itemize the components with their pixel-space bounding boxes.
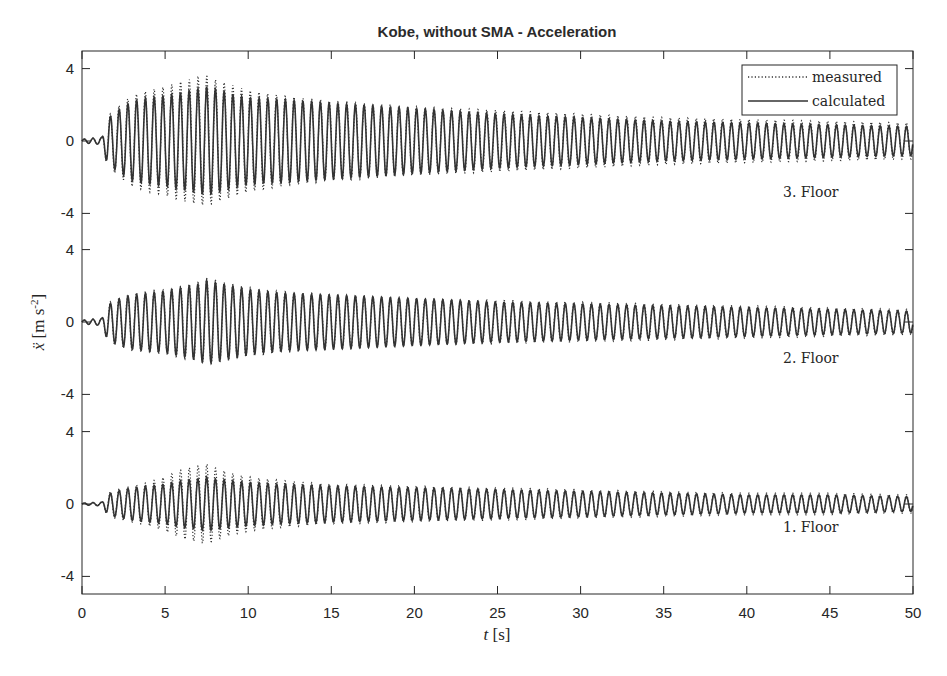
x-tick-label: 0 [78,604,86,621]
x-tick-label: 30 [572,604,589,621]
x-tick-label: 25 [489,604,506,621]
y-tick-label: 4 [66,241,74,258]
x-tick-label: 5 [161,604,169,621]
y-tick-label: 0 [66,495,74,512]
floor-label: 1. Floor [783,519,839,535]
y-tick-label: -4 [61,385,74,402]
x-tick-label: 40 [738,604,755,621]
y-tick-label: 4 [66,423,74,440]
legend: measured calculated [742,65,897,115]
y-tick-label: -4 [61,204,74,221]
legend-calculated-label: calculated [812,93,885,109]
panel-3: 1. Floor [82,465,913,543]
x-tick-label: 15 [323,604,340,621]
y-tick-label: -4 [61,567,74,584]
x-tick-label: 50 [905,604,922,621]
chart-title: Kobe, without SMA - Acceleration [378,23,617,40]
x-axis-label: t [s] [484,625,511,644]
y-axis-label: ẍ [m s-2] [28,294,48,351]
chart-figure: Kobe, without SMA - Acceleration 3. Floo… [0,0,947,676]
floor-label: 2. Floor [783,350,839,366]
y-tick-label: 4 [66,60,74,77]
x-tick-label: 20 [406,604,423,621]
y-tick-label: 0 [66,313,74,330]
y-tick-label: 0 [66,132,74,149]
x-tick-label: 10 [240,604,257,621]
plot-area: 3. Floor2. Floor1. Floor [82,76,913,542]
x-tick-label: 45 [822,604,839,621]
panel-2: 2. Floor [82,279,913,366]
legend-measured-label: measured [812,69,882,85]
floor-label: 3. Floor [783,184,839,200]
x-tick-label: 35 [655,604,672,621]
